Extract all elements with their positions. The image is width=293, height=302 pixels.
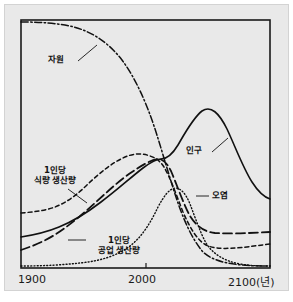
figure-container: 자원 1인당 식량 생산량 1인당 공업 생산량 인구 오염 1900 2000…: [0, 0, 293, 302]
curve-label-population: 인구: [186, 145, 202, 155]
leader-population: [212, 138, 228, 152]
label-leader-lines: [68, 45, 228, 240]
curve-label-food-line1: 1인당: [24, 165, 86, 175]
curve-label-pollution: 오염: [212, 190, 228, 200]
x-tick-label-2000: 2000: [128, 273, 156, 286]
leader-resources: [78, 45, 97, 61]
curve-label-industry-line1: 1인당: [88, 235, 150, 245]
chart-plot-area: [0, 0, 293, 302]
curve-label-food: 1인당 식량 생산량: [24, 165, 86, 185]
x-tick-label-2100: 2100(년): [228, 273, 275, 289]
curve-label-resources: 자원: [48, 54, 64, 64]
curve-label-food-line2: 식량 생산량: [24, 175, 86, 185]
curve-label-industry: 1인당 공업 생산량: [88, 235, 150, 255]
x-tick-label-1900: 1900: [18, 273, 46, 286]
leader-food: [68, 189, 87, 203]
curve-label-industry-line2: 공업 생산량: [88, 245, 150, 255]
